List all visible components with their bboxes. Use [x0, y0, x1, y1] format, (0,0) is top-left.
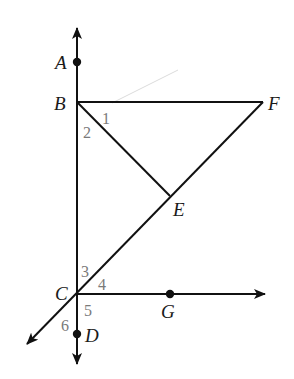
label-b: B: [54, 93, 66, 114]
angle-label-5: 5: [84, 302, 92, 319]
point-g: [166, 290, 174, 298]
segment-be: [77, 102, 170, 196]
diagram-svg: A B C D E F G 1 2 3 4 5 6: [0, 0, 294, 379]
label-d: D: [84, 325, 99, 346]
angle-label-4: 4: [98, 276, 106, 293]
label-c: C: [55, 283, 68, 304]
label-f: F: [267, 93, 280, 114]
point-d: [73, 330, 81, 338]
label-a: A: [53, 52, 67, 73]
angle-label-6: 6: [61, 317, 69, 334]
angle-label-2: 2: [83, 124, 91, 141]
geometry-diagram: A B C D E F G 1 2 3 4 5 6: [0, 0, 294, 379]
stray-line: [112, 70, 178, 103]
point-a: [73, 58, 81, 66]
line-fc: [27, 102, 263, 344]
angle-label-1: 1: [102, 110, 110, 127]
label-g: G: [161, 301, 175, 322]
label-e: E: [172, 199, 185, 220]
angle-label-3: 3: [81, 263, 89, 280]
